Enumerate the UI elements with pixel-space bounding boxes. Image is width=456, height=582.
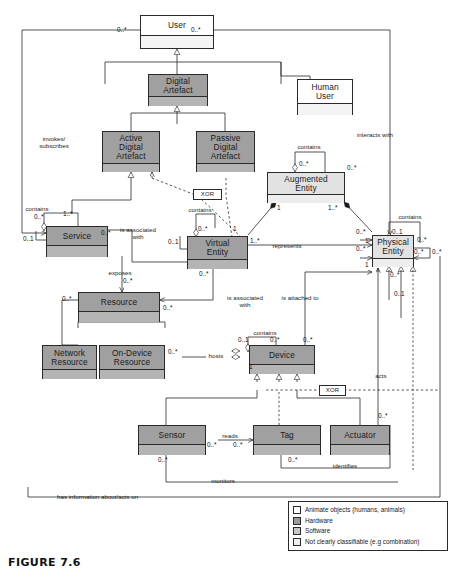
- class-on-device-resource[interactable]: On-DeviceResource: [99, 345, 165, 379]
- legend-row-software: Software: [293, 526, 443, 537]
- class-device[interactable]: Device: [249, 345, 315, 374]
- label-invokes-subscribes: invokes/subscribes: [26, 135, 82, 150]
- class-tag[interactable]: Tag: [253, 425, 321, 455]
- legend: Animate objects (humans, animals) Hardwa…: [288, 501, 448, 551]
- class-augmented-entity[interactable]: AugmentedEntity: [267, 172, 345, 203]
- mult-pe-right-b: 0..*: [432, 249, 442, 255]
- label-acts: acts: [369, 372, 393, 379]
- class-human-user[interactable]: HumanUser: [297, 79, 353, 115]
- class-active-digital-artefact-title: ActiveDigitalArtefact: [103, 132, 159, 164]
- mult-svc-contains-a: 0..*: [34, 214, 44, 220]
- class-passive-digital-artefact[interactable]: PassiveDigitalArtefact: [196, 131, 255, 172]
- class-device-title: Device: [250, 346, 314, 365]
- note-xor-artefact[interactable]: XOR: [193, 189, 222, 200]
- legend-row-hardware: Hardware: [293, 516, 443, 527]
- legend-row-animate: Animate objects (humans, animals): [293, 505, 443, 516]
- class-on-device-resource-title: On-DeviceResource: [100, 346, 164, 370]
- mult-pe-right-a: 0..*: [414, 249, 424, 255]
- class-resource[interactable]: Resource: [78, 292, 160, 322]
- mult-svc-ve: 0..*: [101, 230, 111, 236]
- mult-svc-contains-b: 0..1: [23, 236, 34, 242]
- class-actuator-compartment: [331, 445, 389, 455]
- mult-user-left: 0..*: [117, 27, 127, 33]
- class-active-digital-artefact[interactable]: ActiveDigitalArtefact: [102, 131, 160, 172]
- mult-res-left: 0..*: [62, 296, 72, 302]
- legend-row-not-classifiable: Not clearly classifiable (e.g combinatio…: [293, 537, 443, 548]
- mult-dev-hosts: 1: [249, 364, 253, 370]
- class-network-resource-compartment: [43, 370, 96, 379]
- mult-ve-contains-a: 0..*: [198, 226, 208, 232]
- class-virtual-entity[interactable]: VirtualEntity: [187, 236, 248, 269]
- label-exposes: exposes: [100, 269, 140, 276]
- mult-sensor-monitors: 0..*: [158, 457, 168, 463]
- class-passive-digital-artefact-compartment: [197, 164, 254, 172]
- mult-pe-interacts: 0..*: [356, 229, 366, 235]
- label-hosts: hosts: [202, 352, 230, 359]
- label-contains-service: contains: [17, 205, 57, 212]
- class-resource-title: Resource: [79, 293, 159, 312]
- mult-aug-contains-a: 0..*: [299, 161, 309, 167]
- class-service-compartment: [47, 246, 107, 257]
- class-augmented-entity-title: AugmentedEntity: [268, 173, 344, 195]
- mult-pe-contains-b: 0..*: [417, 237, 427, 243]
- mult-dev-contains-b: 0..*: [270, 337, 280, 343]
- mult-svc-user: 1..*: [63, 211, 73, 217]
- mult-aug-pe: 1..*: [328, 205, 338, 211]
- mult-ve-resource: 0..*: [199, 271, 209, 277]
- label-reads: reads: [216, 432, 244, 439]
- mult-res-right: 0..*: [163, 305, 173, 311]
- label-identifies: identifies: [325, 462, 365, 469]
- class-digital-artefact[interactable]: DigitalArtefact: [148, 74, 208, 106]
- legend-label-software: Software: [305, 527, 330, 535]
- class-passive-digital-artefact-title: PassiveDigitalArtefact: [197, 132, 254, 164]
- class-augmented-entity-compartment: [268, 195, 344, 203]
- class-virtual-entity-title: VirtualEntity: [188, 237, 247, 260]
- class-tag-title: Tag: [254, 426, 320, 445]
- class-sensor-compartment: [139, 445, 205, 455]
- class-digital-artefact-title: DigitalArtefact: [149, 75, 207, 97]
- mult-dev-contains-a: 0..1: [238, 337, 249, 343]
- class-human-user-compartment: [298, 104, 352, 115]
- label-is-associated-with-resource: is associatedwith: [220, 294, 270, 309]
- label-contains-augmented: contains: [288, 143, 330, 150]
- class-active-digital-artefact-compartment: [103, 164, 159, 172]
- class-user-title: User: [141, 16, 213, 36]
- mult-sensor-reads: 0..*: [207, 442, 217, 448]
- class-actuator-title: Actuator: [331, 426, 389, 445]
- class-sensor-title: Sensor: [139, 426, 205, 445]
- class-tag-compartment: [254, 445, 320, 455]
- label-represents: represents: [264, 242, 310, 249]
- mult-aug-ve: 1: [277, 205, 281, 211]
- legend-swatch-hardware-icon: [293, 517, 301, 525]
- class-user[interactable]: User: [140, 15, 214, 49]
- legend-swatch-not-classifiable-icon: [293, 538, 301, 546]
- class-physical-entity-compartment: [373, 259, 413, 267]
- mult-tag-reads: 0..*: [233, 442, 243, 448]
- class-resource-compartment: [79, 312, 159, 322]
- legend-swatch-software-icon: [293, 527, 301, 535]
- mult-dev-attached: 0..*: [303, 337, 313, 343]
- label-interacts-with: interacts with: [344, 131, 406, 138]
- class-physical-entity-title: PhysicalEntity: [373, 236, 413, 259]
- mult-res-exposes: 0..*: [123, 278, 133, 284]
- label-is-attached-to: is attached to: [272, 294, 328, 301]
- class-service[interactable]: Service: [46, 226, 108, 257]
- legend-label-animate: Animate objects (humans, animals): [305, 506, 405, 514]
- label-contains-physical: contains: [389, 213, 431, 220]
- class-sensor[interactable]: Sensor: [138, 425, 206, 455]
- mult-ondev-hosts: 0..*: [168, 349, 178, 355]
- class-network-resource[interactable]: NetworkResource: [42, 345, 97, 379]
- class-service-title: Service: [47, 227, 107, 246]
- figure-caption: FIGURE 7.6: [8, 556, 81, 569]
- class-network-resource-title: NetworkResource: [43, 346, 96, 370]
- class-digital-artefact-compartment: [149, 97, 207, 106]
- class-device-compartment: [250, 365, 314, 374]
- mult-pe-aug: 1: [365, 238, 369, 244]
- note-xor-device[interactable]: XOR: [319, 385, 346, 396]
- class-actuator[interactable]: Actuator: [330, 425, 390, 455]
- class-physical-entity[interactable]: PhysicalEntity: [372, 235, 414, 267]
- legend-label-not-classifiable: Not clearly classifiable (e.g combinatio…: [305, 538, 419, 546]
- label-monitors: monitors: [205, 477, 241, 484]
- mult-user-right: 0..*: [191, 27, 201, 33]
- mult-ve-represents: 1..*: [250, 238, 260, 244]
